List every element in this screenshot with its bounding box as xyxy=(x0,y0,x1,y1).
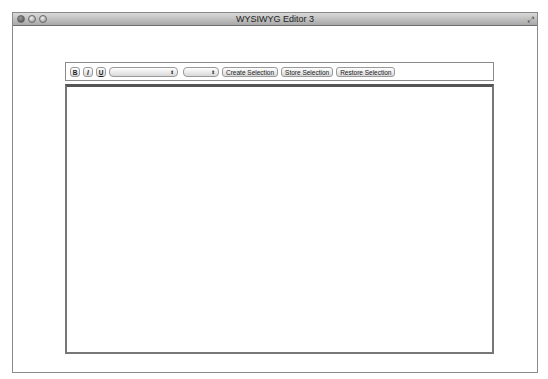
restore-selection-button[interactable]: Restore Selection xyxy=(336,67,395,77)
editor-content-area[interactable] xyxy=(65,84,494,354)
store-selection-button[interactable]: Store Selection xyxy=(281,67,333,77)
font-family-select[interactable]: ⬍ xyxy=(109,67,178,77)
create-selection-button[interactable]: Create Selection xyxy=(222,67,278,77)
window-title: WYSIWYG Editor 3 xyxy=(13,13,537,26)
font-size-select[interactable]: ⬍ xyxy=(183,67,219,77)
italic-button[interactable]: I xyxy=(83,67,93,77)
bold-button[interactable]: B xyxy=(70,67,80,77)
underline-button[interactable]: U xyxy=(96,67,106,77)
fullscreen-icon[interactable]: ⤢ xyxy=(528,15,534,24)
select-arrows-icon: ⬍ xyxy=(211,68,215,77)
editor-toolbar: B I U ⬍ ⬍ Create Selection Store Selecti… xyxy=(65,62,494,81)
app-window: WYSIWYG Editor 3 ⤢ B I U ⬍ ⬍ Create Sele… xyxy=(12,12,538,373)
select-arrows-icon: ⬍ xyxy=(170,68,174,77)
title-bar[interactable]: WYSIWYG Editor 3 ⤢ xyxy=(13,13,537,26)
